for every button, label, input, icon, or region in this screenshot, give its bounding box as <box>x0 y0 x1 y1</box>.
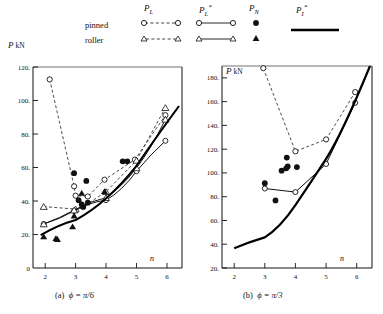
panel-b-y-ticks: 180. 160. 140. 120. 100. 80. 60. 40. 20. <box>207 74 227 272</box>
legend-header-pn: PN <box>249 3 259 15</box>
legend-symbol-pi-star <box>288 25 342 35</box>
svg-text:2: 2 <box>43 273 47 280</box>
svg-text:20.: 20. <box>210 265 219 273</box>
panel-b-series-pl-star-pinned <box>262 100 357 194</box>
svg-text:80.: 80. <box>21 131 30 139</box>
svg-text:5: 5 <box>324 273 328 280</box>
legend-header-pl-star: PL* <box>199 3 212 17</box>
panel-a-series-pl-star-roller <box>40 116 169 226</box>
svg-text:n: n <box>150 254 154 263</box>
legend-symbol-pl-pinned <box>139 18 183 28</box>
svg-text:n: n <box>340 254 344 263</box>
legend-symbol-pl-roller <box>139 33 183 43</box>
panel-a-caption: (a) ϕ = π/6 <box>55 290 94 300</box>
panel-b-series-pl-pinned <box>261 66 358 154</box>
svg-text:100.: 100. <box>207 169 220 177</box>
panel-b-series-pn-pinned <box>262 155 300 204</box>
svg-text:120.: 120. <box>207 146 220 154</box>
figure-root: PL PL* PN PI* pinned roller <box>0 0 383 314</box>
panel-b-caption: (b) ϕ = π/3 <box>243 290 282 300</box>
panel-a-axis-title: P kN <box>8 40 25 50</box>
svg-text:6: 6 <box>165 273 169 280</box>
svg-text:0: 0 <box>27 265 31 273</box>
panel-b-chart: 180. 160. 140. 120. 100. 80. 60. 40. 20.… <box>190 58 383 280</box>
svg-text:160.: 160. <box>207 98 220 106</box>
legend-symbol-pl-star-pinned <box>194 18 238 28</box>
svg-text:60.: 60. <box>21 164 30 172</box>
svg-text:4: 4 <box>104 273 108 280</box>
panel-b-axis-title: P kN <box>225 66 243 76</box>
svg-text:5: 5 <box>135 273 139 280</box>
panel-b-series-pi-star <box>234 66 370 248</box>
svg-text:20.: 20. <box>21 231 30 239</box>
svg-text:180.: 180. <box>207 74 220 82</box>
panel-a-x-ticks: 2 3 4 5 6 n <box>43 254 169 280</box>
legend-row-label-roller: roller <box>85 35 103 45</box>
svg-text:120.: 120. <box>18 64 31 72</box>
svg-text:80.: 80. <box>210 193 219 201</box>
legend: PL PL* PN PI* pinned roller <box>0 0 383 58</box>
svg-text:40.: 40. <box>21 198 30 206</box>
svg-text:3: 3 <box>74 273 78 280</box>
svg-text:60.: 60. <box>210 217 219 225</box>
legend-symbol-pn-pinned <box>249 18 263 28</box>
svg-text:2: 2 <box>232 273 236 280</box>
legend-row-label-pinned: pinned <box>85 20 108 30</box>
legend-header-pi-star: PI* <box>296 3 307 17</box>
panel-a-y-ticks: 120. 100. 80. 60. 40. 20. 0 <box>18 64 38 273</box>
svg-text:100.: 100. <box>18 97 31 105</box>
svg-text:40.: 40. <box>210 241 219 249</box>
legend-symbol-pn-roller <box>249 33 263 43</box>
panel-b-x-ticks: 2 3 4 5 6 n <box>232 254 359 280</box>
panel-a-chart: 120. 100. 80. 60. 40. 20. 0 2 3 4 5 6 n <box>0 58 195 280</box>
svg-text:6: 6 <box>355 273 359 280</box>
panel-a-series-pi-star <box>41 106 179 235</box>
panel-a-series-pl-pinned <box>47 77 168 199</box>
legend-header-pl: PL <box>144 3 153 15</box>
svg-text:140.: 140. <box>207 122 220 130</box>
svg-text:4: 4 <box>294 273 298 280</box>
svg-text:3: 3 <box>263 273 267 280</box>
legend-symbol-pl-star-roller <box>194 33 238 43</box>
